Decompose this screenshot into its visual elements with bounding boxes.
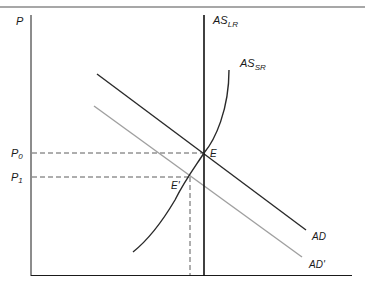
p1-label: P1 (11, 171, 23, 185)
ad-curve (97, 74, 306, 230)
equilibrium-e-prime-label: E' (171, 180, 181, 191)
equilibrium-e-label: E (210, 148, 217, 159)
as-lr-label: ASLR (212, 14, 238, 29)
ad-prime-curve (94, 106, 302, 257)
p0-label: P0 (11, 147, 23, 161)
ad-label: AD (311, 231, 326, 242)
ad-prime-label: AD' (308, 259, 326, 270)
as-sr-label: ASSR (239, 57, 266, 72)
y-axis-label: P (16, 15, 24, 27)
as-ad-diagram: P ASLR ASSR AD AD' P0 P1 E E' (0, 0, 365, 281)
